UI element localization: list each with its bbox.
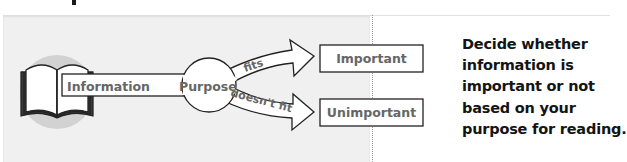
important-label: Important (336, 51, 407, 66)
unimportant-label: Unimportant (327, 105, 416, 120)
purpose-label: Purpose (179, 79, 237, 94)
caption-line: based on your (462, 98, 612, 119)
caption-line: important or not (462, 76, 612, 97)
information-label: Information (67, 79, 150, 94)
caption-line: Decide whether (462, 34, 612, 55)
caption-text: Decide whether information is important … (462, 34, 612, 140)
caption-line: purpose for reading. (462, 119, 612, 140)
caption-line: information is (462, 55, 612, 76)
purpose-flow-diagram: Information Purpose fits doesn't fit Imp… (0, 0, 440, 162)
